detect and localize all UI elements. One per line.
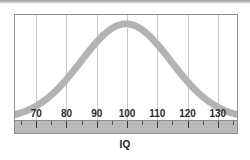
iq-distribution-figure: 708090100110120130 IQ	[0, 0, 250, 160]
x-major-tick-110	[157, 121, 158, 128]
x-tick-label-120: 120	[179, 109, 196, 119]
x-tick-label-90: 90	[91, 109, 102, 119]
x-minor-tick-65	[21, 121, 22, 125]
x-major-tick-120	[188, 121, 189, 128]
x-minor-tick-135	[233, 121, 234, 125]
x-major-tick-80	[66, 121, 67, 128]
x-tick-label-110: 110	[149, 109, 165, 119]
x-tick-label-130: 130	[209, 109, 226, 119]
plot-panel: 708090100110120130	[14, 14, 238, 121]
x-tick-label-80: 80	[61, 109, 72, 119]
x-major-tick-90	[97, 121, 98, 128]
x-axis-band	[14, 121, 238, 134]
x-major-tick-70	[36, 121, 37, 128]
x-minor-tick-95	[112, 121, 113, 125]
x-tick-label-70: 70	[31, 109, 42, 119]
x-major-tick-100	[127, 121, 128, 128]
x-tick-label-100: 100	[119, 109, 136, 119]
x-minor-tick-75	[51, 121, 52, 125]
x-minor-tick-85	[82, 121, 83, 125]
x-axis-title: IQ	[0, 139, 250, 150]
top-edge-strip	[0, 0, 250, 4]
bell-curve	[15, 15, 237, 120]
bell-curve-path	[15, 24, 237, 115]
x-minor-tick-125	[203, 121, 204, 125]
x-major-tick-130	[218, 121, 219, 128]
x-minor-tick-115	[172, 121, 173, 125]
x-minor-tick-105	[142, 121, 143, 125]
